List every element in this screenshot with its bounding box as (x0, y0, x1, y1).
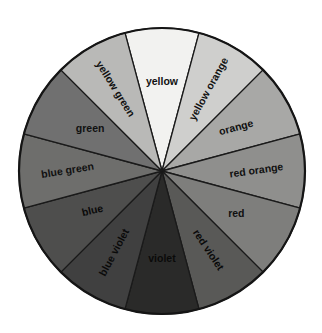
color-wheel-svg: yellowyellow orangeorangered orangeredre… (0, 0, 322, 333)
segment-label-yellow: yellow (146, 75, 179, 87)
segment-label-green: green (76, 122, 105, 134)
segment-label-red: red (228, 207, 244, 219)
segment-label-violet: violet (148, 252, 176, 264)
color-wheel-figure: yellowyellow orangeorangered orangeredre… (0, 0, 322, 333)
